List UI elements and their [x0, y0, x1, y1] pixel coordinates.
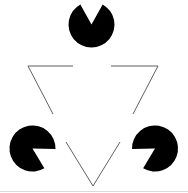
kanizsa-figure-svg	[0, 0, 188, 193]
kanizsa-figure-container	[0, 0, 188, 193]
